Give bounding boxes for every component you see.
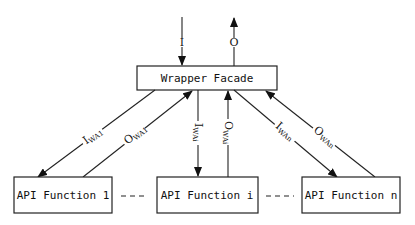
edge-label-sub: WAi	[191, 127, 199, 142]
wrapper-facade-label: Wrapper Facade	[161, 72, 254, 85]
edge-label-main: O	[222, 121, 235, 130]
input-arrow: I	[176, 17, 188, 65]
svg-text:OWA1: OWA1	[121, 121, 150, 148]
api-function-1-label: API Function 1	[17, 189, 110, 202]
output-label: O	[229, 36, 238, 49]
api-function-1-box: API Function 1	[14, 177, 112, 213]
wrapper-facade-box: Wrapper Facade	[137, 66, 277, 90]
api-function-n-label: API Function n	[305, 189, 398, 202]
edge-label-sub: WAi	[221, 130, 229, 145]
diagram-svg: I O Wrapper Facade IWA1 OWA1	[0, 0, 415, 225]
api-function-i-label: API Function i	[161, 189, 254, 202]
input-label: I	[180, 36, 184, 49]
output-arrow: O	[228, 18, 240, 66]
edge-o-wai: OWAi	[221, 91, 235, 177]
edge-i-wai: IWAi	[191, 90, 205, 176]
api-function-i-box: API Function i	[157, 177, 258, 213]
wrapper-facade-diagram: I O Wrapper Facade IWA1 OWA1	[0, 0, 415, 225]
api-function-n-box: API Function n	[302, 177, 400, 213]
